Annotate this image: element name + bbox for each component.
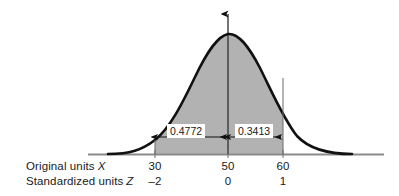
axis-row-original: Original unitsX 30 50 60	[0, 159, 399, 174]
axis-row-standardized-symbol: Z	[123, 175, 133, 187]
tick-label-x30: 30	[138, 159, 172, 174]
annotation-left-area: 0.4772	[167, 124, 205, 138]
axis-row-standardized: Standardized unitsZ –2 0 1	[0, 174, 399, 189]
axis-row-original-text: Original units	[26, 160, 95, 172]
shaded-area	[108, 34, 352, 154]
axis-row-original-symbol: X	[95, 160, 106, 172]
tick-label-x50: 50	[211, 159, 245, 174]
tick-label-zneg2: –2	[138, 174, 172, 189]
annotation-right-area: 0.3413	[235, 124, 273, 138]
axis-value-table: Original unitsX 30 50 60 Standardized un…	[0, 155, 399, 196]
axis-row-standardized-text: Standardized units	[26, 175, 123, 187]
tick-label-x60: 60	[266, 159, 300, 174]
normal-distribution-figure: 0.4772 0.3413 Original unitsX 30 50 60 S…	[0, 0, 399, 196]
tick-label-z0: 0	[211, 174, 245, 189]
tick-label-z1: 1	[266, 174, 300, 189]
axis-row-standardized-label: Standardized unitsZ	[26, 174, 133, 189]
axis-row-original-label: Original unitsX	[26, 159, 106, 174]
